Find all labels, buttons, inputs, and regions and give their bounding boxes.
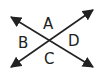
angle-label-d: D <box>68 32 80 50</box>
angle-label-b: B <box>18 34 28 52</box>
intersecting-lines-diagram: A B C D <box>0 0 100 73</box>
angle-label-c: C <box>44 50 54 68</box>
angle-label-a: A <box>43 15 54 33</box>
